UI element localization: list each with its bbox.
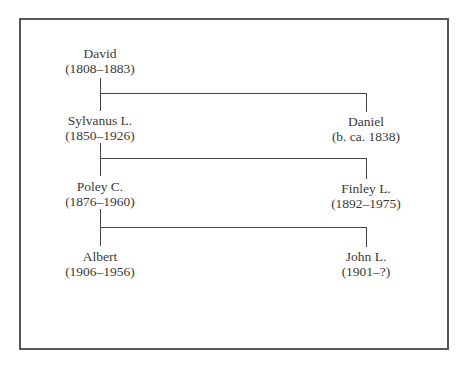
person-poley: Poley C. (1876–1960) bbox=[40, 179, 160, 209]
person-dates: (1892–1975) bbox=[306, 196, 426, 211]
connector-line bbox=[366, 158, 367, 179]
person-name: Sylvanus L. bbox=[40, 113, 160, 128]
person-name: Albert bbox=[40, 249, 160, 264]
person-finley: Finley L. (1892–1975) bbox=[306, 181, 426, 211]
person-name: Poley C. bbox=[40, 179, 160, 194]
person-david: David (1808–1883) bbox=[40, 46, 160, 76]
connector-line bbox=[366, 227, 367, 247]
connector-line bbox=[100, 93, 366, 94]
person-john: John L. (1901–?) bbox=[306, 249, 426, 279]
person-daniel: Daniel (b. ca. 1838) bbox=[306, 114, 426, 144]
person-dates: (1850–1926) bbox=[40, 128, 160, 143]
connector-line bbox=[100, 158, 366, 159]
person-name: David bbox=[40, 46, 160, 61]
person-sylvanus: Sylvanus L. (1850–1926) bbox=[40, 113, 160, 143]
connector-line bbox=[366, 93, 367, 112]
connector-line bbox=[100, 143, 101, 176]
connector-line bbox=[100, 227, 366, 228]
connector-line bbox=[100, 78, 101, 111]
person-dates: (b. ca. 1838) bbox=[306, 129, 426, 144]
person-name: Finley L. bbox=[306, 181, 426, 196]
person-name: Daniel bbox=[306, 114, 426, 129]
person-dates: (1906–1956) bbox=[40, 264, 160, 279]
person-dates: (1876–1960) bbox=[40, 194, 160, 209]
person-dates: (1901–?) bbox=[306, 264, 426, 279]
person-name: John L. bbox=[306, 249, 426, 264]
person-dates: (1808–1883) bbox=[40, 61, 160, 76]
person-albert: Albert (1906–1956) bbox=[40, 249, 160, 279]
